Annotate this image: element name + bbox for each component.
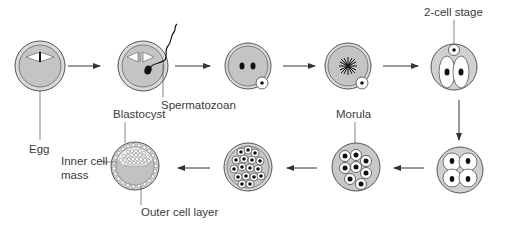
development-diagram	[0, 0, 505, 226]
blastocyst-label: Blastocyst	[113, 108, 165, 121]
two-cell-stage-label: 2-cell stage	[424, 6, 483, 19]
egg-label: Egg	[29, 143, 49, 156]
spindle-star-icon	[339, 57, 357, 75]
morula-embryo	[332, 122, 380, 191]
spermatozoan-label: Spermatozoan	[161, 99, 236, 112]
outer-cell-layer-label: Outer cell layer	[141, 206, 218, 219]
blastocyst-embryo	[102, 122, 159, 205]
fertilized-egg	[118, 24, 177, 97]
inner-cell-mass-label-1: Inner cell	[61, 155, 108, 168]
two-cell-embryo	[431, 20, 477, 90]
morula-label: Morula	[336, 108, 371, 121]
fusion-egg	[325, 43, 371, 89]
inner-cell-mass-label-2: mass	[61, 169, 88, 182]
sixteen-cell-embryo	[224, 143, 272, 191]
egg-cell	[15, 41, 65, 140]
four-cell-embryo	[437, 147, 483, 193]
pronuclei-egg	[225, 43, 271, 89]
